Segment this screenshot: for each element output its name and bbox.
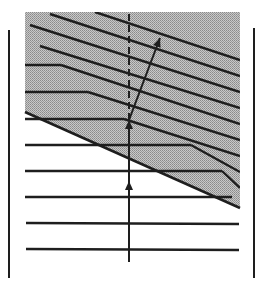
diagram-canvas	[0, 0, 258, 281]
incident-wavefront-line	[26, 223, 239, 224]
refraction-diagram	[0, 0, 258, 281]
incident-wavefront-line	[26, 249, 239, 250]
arrowhead-up-icon	[125, 181, 133, 190]
